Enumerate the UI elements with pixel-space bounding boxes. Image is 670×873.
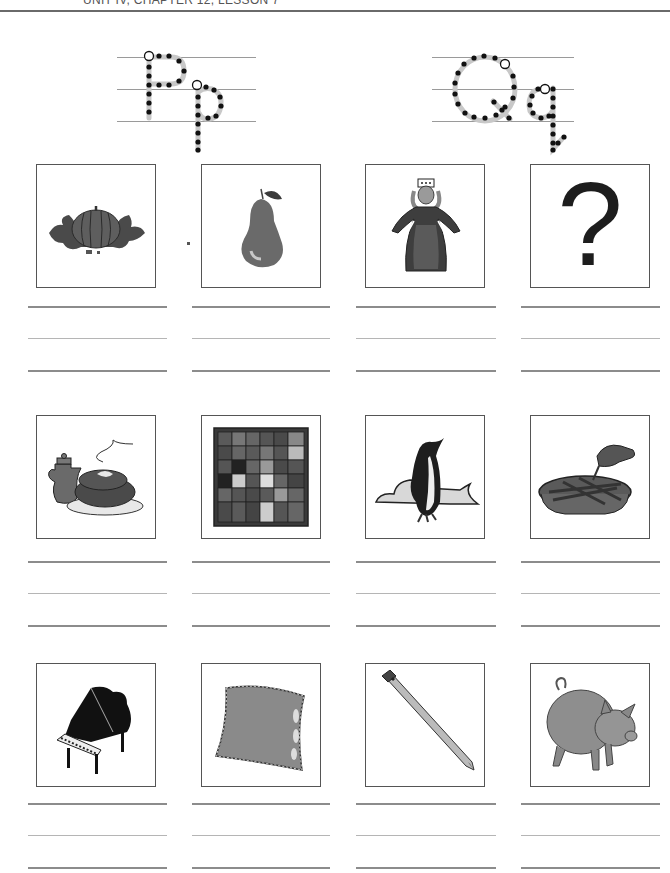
- quilt-icon: [206, 422, 316, 532]
- picture-box-penguin: [365, 415, 485, 539]
- writing-line[interactable]: [356, 625, 496, 627]
- picture-box-pot-roast: [36, 415, 156, 539]
- picture-box-pumpkin: [36, 164, 156, 288]
- pot-roast-icon: [41, 422, 151, 532]
- writing-line[interactable]: [521, 625, 660, 627]
- writing-line[interactable]: [521, 338, 660, 339]
- letter-q-dotted-icon: [0, 0, 670, 170]
- writing-line[interactable]: [356, 593, 496, 594]
- pumpkin-icon: [41, 171, 151, 281]
- queen-icon: [370, 171, 480, 281]
- writing-line[interactable]: [28, 370, 167, 372]
- writing-line[interactable]: [192, 803, 330, 805]
- picture-box-pie: [530, 415, 650, 539]
- writing-line[interactable]: [521, 306, 660, 308]
- writing-line[interactable]: [521, 561, 660, 563]
- picture-box-quilt: [201, 415, 321, 539]
- picture-box-pear: [201, 164, 321, 288]
- writing-line[interactable]: [28, 625, 167, 627]
- picture-box-piano: [36, 663, 156, 787]
- writing-line[interactable]: [28, 803, 167, 805]
- pie-icon: [535, 422, 645, 532]
- picture-box-pencil: [365, 663, 485, 787]
- writing-line[interactable]: [28, 561, 167, 563]
- writing-line[interactable]: [521, 593, 660, 594]
- writing-line[interactable]: [192, 561, 330, 563]
- picture-box-pillow: [201, 663, 321, 787]
- writing-line[interactable]: [192, 370, 330, 372]
- writing-line[interactable]: [28, 593, 167, 594]
- question-mark-icon: ?: [557, 165, 623, 283]
- writing-line[interactable]: [192, 338, 330, 339]
- writing-line[interactable]: [356, 338, 496, 339]
- stray-mark: [187, 242, 190, 245]
- writing-line[interactable]: [521, 803, 660, 805]
- writing-line[interactable]: [28, 867, 167, 869]
- writing-line[interactable]: [356, 306, 496, 308]
- writing-line[interactable]: [192, 306, 330, 308]
- picture-box-pig: [530, 663, 650, 787]
- writing-line[interactable]: [28, 306, 167, 308]
- writing-line[interactable]: [192, 625, 330, 627]
- pillow-icon: [206, 670, 316, 780]
- writing-line[interactable]: [356, 835, 496, 836]
- writing-line[interactable]: [192, 593, 330, 594]
- penguin-icon: [370, 422, 480, 532]
- writing-line[interactable]: [28, 835, 167, 836]
- writing-line[interactable]: [356, 370, 496, 372]
- piano-icon: [41, 670, 151, 780]
- picture-box-question-mark: ?: [530, 164, 650, 288]
- writing-line[interactable]: [356, 803, 496, 805]
- writing-line[interactable]: [521, 370, 660, 372]
- pig-icon: [535, 670, 645, 780]
- writing-line[interactable]: [192, 835, 330, 836]
- writing-line[interactable]: [356, 561, 496, 563]
- picture-box-queen: [365, 164, 485, 288]
- writing-line[interactable]: [28, 338, 167, 339]
- pencil-icon: [370, 670, 480, 780]
- writing-line[interactable]: [192, 867, 330, 869]
- writing-line[interactable]: [521, 867, 660, 869]
- writing-line[interactable]: [521, 835, 660, 836]
- pear-icon: [206, 171, 316, 281]
- writing-line[interactable]: [356, 867, 496, 869]
